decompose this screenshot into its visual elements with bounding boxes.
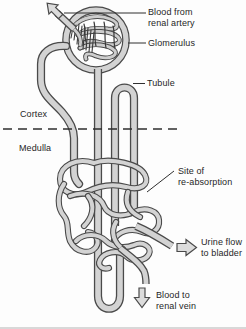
label-cortex: Cortex [20,109,47,120]
label-site-of-reabsorption: Site of re-absorption [178,166,232,188]
nephron-diagram: Blood from renal artery Glomerulus Tubul… [0,0,246,329]
urine-flow-arrow-icon [177,240,197,256]
leader-site-of-reabsorption [147,171,174,192]
label-glomerulus: Glomerulus [148,38,195,49]
blood-out-arrow-icon [135,288,150,308]
nephron-artwork [0,0,246,329]
label-blood-to-renal-vein: Blood to renal vein [156,290,196,312]
label-medulla: Medulla [19,143,51,154]
label-blood-from-renal-artery: Blood from renal artery [148,7,195,29]
label-urine-flow-to-bladder: Urine flow to bladder [201,237,242,259]
label-tubule: Tubule [147,78,175,89]
